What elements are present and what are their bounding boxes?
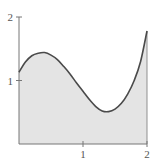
x-tick-label: 1 <box>80 148 86 160</box>
x-tick-label: 2 <box>144 148 150 160</box>
y-tick-label: 2 <box>8 11 14 23</box>
shaded-area <box>19 31 147 144</box>
y-tick-label: 1 <box>8 75 14 87</box>
area-chart: 12 12 <box>0 0 153 164</box>
